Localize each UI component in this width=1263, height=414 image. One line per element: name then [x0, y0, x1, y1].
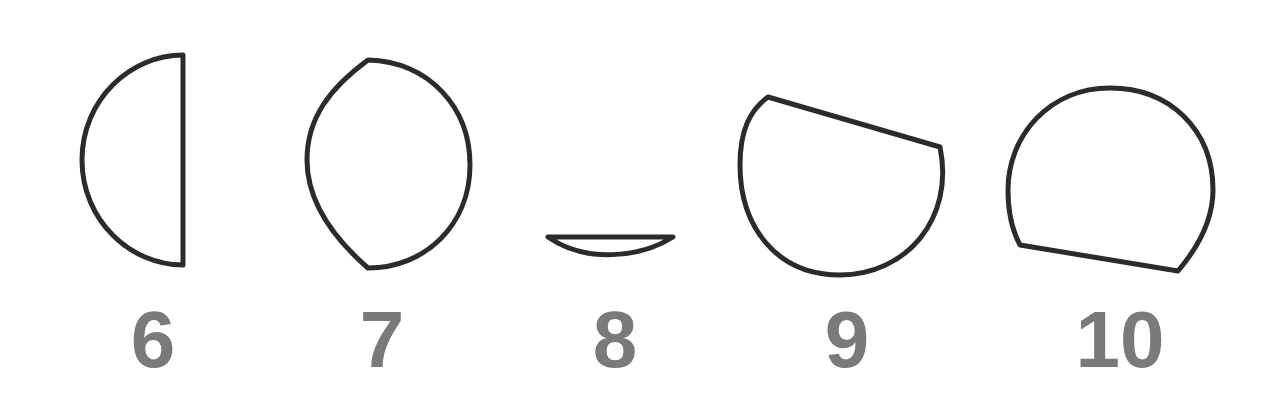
label-6: 6: [73, 300, 233, 380]
shape-10: [1008, 88, 1213, 271]
label-10: 10: [1040, 300, 1200, 380]
shape-6: [82, 55, 183, 265]
label-8: 8: [535, 300, 695, 380]
label-7: 7: [302, 300, 462, 380]
shape-9: [740, 97, 943, 275]
shape-8: [548, 237, 673, 255]
label-9: 9: [767, 300, 927, 380]
shape-7: [307, 60, 470, 268]
